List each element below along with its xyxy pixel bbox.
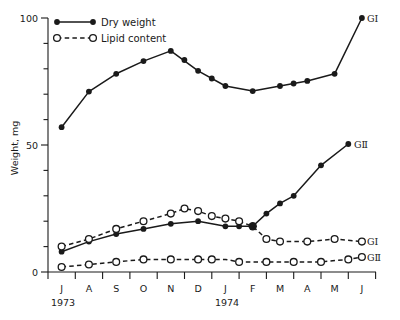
x-tick-label-2: S (113, 283, 119, 294)
y-axis-title: Weight, mg (9, 121, 20, 175)
x-tick-label-7: F (250, 283, 255, 294)
series-dry-weight-gi: GI (59, 13, 379, 130)
x-tick-label-3: O (140, 283, 147, 294)
x-tick-label-8: M (276, 283, 284, 294)
series-lipid-content-gi: GI (58, 205, 378, 250)
series-end-label-lipid-gii: GⅡ (367, 252, 381, 263)
y-axis (41, 18, 48, 272)
series-end-label-lipid-gi: GI (367, 236, 379, 247)
x-tick-label-4: N (167, 283, 174, 294)
series-end-label-dry-weight-gii: GⅡ (354, 139, 368, 150)
x-axis (48, 272, 376, 279)
x-tick-label-11: J (359, 283, 363, 294)
x-tick-label-0: J (59, 283, 63, 294)
series-lipid-content-gii: GⅡ (58, 252, 381, 270)
chart-figure: 100 50 0 Weight, mg J A S O N D J F M (0, 0, 400, 320)
y-tick-label-100: 100 (20, 13, 38, 24)
x-tick-label-5: D (194, 283, 201, 294)
x-tick-label-1: A (86, 283, 93, 294)
legend-label-dry-weight: Dry weight (101, 17, 156, 28)
chart-legend: Dry weight Lipid content (54, 17, 167, 44)
legend-item-dry-weight: Dry weight (54, 17, 156, 28)
x-tick-label-9: A (304, 283, 311, 294)
legend-item-lipid-content: Lipid content (54, 33, 167, 44)
x-period-label-1973: 1973 (51, 297, 75, 308)
y-tick-label-0: 0 (32, 267, 38, 278)
x-tick-label-10: M (330, 283, 338, 294)
x-tick-label-6: J (223, 283, 227, 294)
chart-svg: 100 50 0 Weight, mg J A S O N D J F M (0, 0, 400, 320)
legend-label-lipid-content: Lipid content (101, 33, 166, 44)
series-end-label-dry-weight-gi: GI (367, 13, 379, 24)
x-period-label-1974: 1974 (215, 297, 239, 308)
series-dry-weight-gii: GⅡ (59, 139, 368, 255)
y-tick-label-50: 50 (26, 140, 38, 151)
